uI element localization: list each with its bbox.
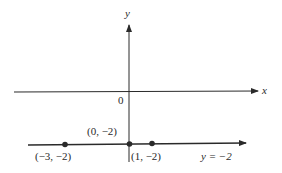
point-minus3-minus2 — [62, 142, 68, 148]
coordinate-plane: y x 0 (0, −2) (−3, −2) (1, −2) y = −2 — [0, 0, 282, 173]
point-1-minus2 — [149, 141, 155, 147]
x-axis — [14, 91, 258, 92]
point-label-1-minus2: (1, −2) — [131, 150, 161, 163]
point-label-0-minus2: (0, −2) — [87, 125, 117, 138]
line-equation-label: y = −2 — [200, 150, 232, 162]
point-0-minus2 — [127, 141, 133, 147]
point-label-minus3-minus2: (−3, −2) — [35, 150, 72, 163]
y-axis-label: y — [124, 7, 130, 19]
line-y-equals-minus-2 — [28, 143, 246, 145]
origin-label: 0 — [118, 94, 124, 106]
x-axis-label: x — [261, 84, 267, 96]
